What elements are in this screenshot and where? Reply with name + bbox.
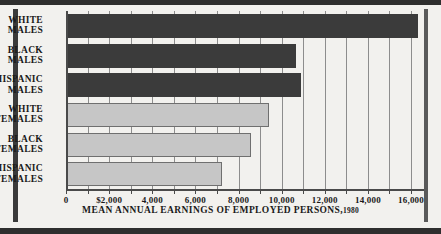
x-tick-label: 0	[64, 195, 69, 205]
x-tick	[389, 189, 390, 194]
x-tick-label: 12,000	[312, 195, 338, 205]
x-tick	[325, 189, 326, 194]
x-tick	[174, 189, 175, 194]
x-tick	[195, 189, 196, 194]
x-tick	[411, 189, 412, 194]
caption-year: 1980	[343, 206, 359, 215]
x-tick	[260, 189, 261, 194]
category-label: HISPANIC MALES	[0, 74, 43, 95]
category-label: BLACK MALES	[0, 45, 43, 66]
x-tick	[131, 189, 132, 194]
x-tick	[303, 189, 304, 194]
x-tick-label: $2,000	[96, 195, 122, 205]
x-axis-line	[66, 189, 424, 191]
x-tick	[109, 189, 110, 194]
bar	[66, 162, 222, 186]
x-tick-label: 10,000	[269, 195, 295, 205]
x-tick	[88, 189, 89, 194]
bar	[66, 73, 301, 97]
x-tick	[66, 189, 67, 194]
caption-main: MEAN ANNUAL EARNINGS OF EMPLOYED PERSONS…	[82, 205, 343, 215]
category-label: WHITE FEMALES	[0, 104, 43, 125]
x-tick	[346, 189, 347, 194]
x-tick-label: 6,000	[185, 195, 206, 205]
x-tick	[152, 189, 153, 194]
x-tick	[282, 189, 283, 194]
y-axis-line	[66, 11, 68, 189]
bar	[66, 103, 269, 127]
plot-area: 0$2,0004,0006,0008,00010,00012,00014,000…	[66, 11, 424, 189]
x-tick-label: 14,000	[355, 195, 381, 205]
category-label: WHITE MALES	[0, 15, 43, 36]
x-tick	[217, 189, 218, 194]
x-tick	[368, 189, 369, 194]
x-tick-label: 16,000	[398, 195, 424, 205]
chart-figure: 0$2,0004,0006,0008,00010,00012,00014,000…	[0, 0, 441, 234]
x-tick-label: 4,000	[142, 195, 163, 205]
frame-bottom-rule	[0, 228, 441, 234]
chart-caption: MEAN ANNUAL EARNINGS OF EMPLOYED PERSONS…	[0, 205, 441, 215]
bar	[66, 14, 418, 38]
bar	[66, 133, 251, 157]
x-tick	[239, 189, 240, 194]
bar	[66, 44, 296, 68]
category-label: HISPANIC FEMALES	[0, 163, 43, 184]
frame-top-rule	[0, 0, 441, 5]
x-tick-label: 8,000	[228, 195, 249, 205]
frame-right-rule	[424, 9, 428, 222]
category-label: BLACK FEMALES	[0, 134, 43, 155]
